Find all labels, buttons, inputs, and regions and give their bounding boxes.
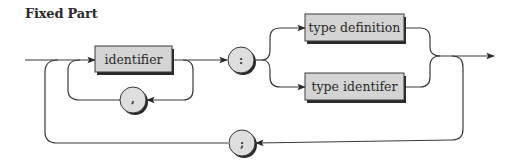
terminal-colon: : [228, 47, 256, 75]
semicolon-label: ; [240, 137, 244, 150]
terminal-semicolon: ; [229, 130, 257, 158]
type-identifier-label: type identifer [312, 79, 398, 94]
identifier-label: identifier [104, 52, 162, 67]
terminal-comma: , [120, 87, 148, 115]
colon-label: : [239, 54, 243, 67]
nonterminal-type-definition: type definition [305, 14, 406, 44]
connector-lines [25, 28, 494, 143]
nonterminal-type-identifier: type identifer [305, 73, 406, 103]
syntax-diagram: identifier type definition type identife… [0, 0, 518, 167]
type-definition-label: type definition [309, 20, 401, 35]
comma-label: , [131, 93, 135, 106]
nonterminal-identifier: identifier [95, 46, 174, 75]
